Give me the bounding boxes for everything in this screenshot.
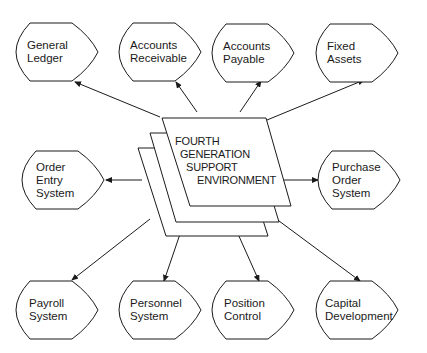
node-label-line: Control: [224, 310, 290, 323]
node-label-line: Ledger: [27, 52, 93, 65]
node-purchase-order-system[interactable]: Purchase Order System: [318, 151, 400, 209]
node-label-line: General: [27, 39, 93, 52]
node-label-line: Personnel: [130, 297, 196, 310]
center-line: GENERATION: [180, 148, 250, 161]
arrow-to-general-ledger: [75, 82, 160, 117]
node-label-line: Accounts: [130, 39, 196, 52]
node-label-line: Receivable: [130, 52, 196, 65]
node-label-line: System: [130, 310, 196, 323]
arrow-to-accounts-receivable: [176, 82, 197, 112]
node-label-line: Accounts: [223, 40, 289, 53]
arrow-to-personnel: [164, 234, 180, 281]
node-label-line: Purchase: [332, 161, 398, 174]
node-label-line: Payable: [223, 53, 289, 66]
arrow-to-accounts-payable: [240, 81, 261, 112]
node-label-line: Payroll: [29, 297, 95, 310]
center-line: SUPPORT: [186, 161, 238, 174]
node-label-line: System: [332, 187, 398, 200]
node-label-line: Order: [36, 161, 102, 174]
node-personnel-system[interactable]: Personnel System: [119, 281, 201, 339]
node-label-line: Capital: [325, 297, 397, 310]
node-label-line: Assets: [327, 53, 393, 66]
node-label-line: Fixed: [327, 40, 393, 53]
node-general-ledger[interactable]: General Ledger: [16, 23, 98, 81]
node-label-line: System: [29, 310, 95, 323]
node-accounts-receivable[interactable]: Accounts Receivable: [119, 23, 201, 81]
node-fixed-assets[interactable]: Fixed Assets: [316, 24, 398, 82]
node-label-line: Entry: [36, 174, 102, 187]
node-label-line: Development: [325, 310, 397, 323]
node-order-entry-system[interactable]: Order Entry System: [22, 151, 104, 209]
arrow-to-position-control: [238, 234, 259, 281]
arrow-to-capital-development: [275, 218, 360, 281]
arrow-to-payroll: [72, 219, 150, 280]
node-position-control[interactable]: Position Control: [212, 281, 294, 339]
node-payroll-system[interactable]: Payroll System: [16, 281, 98, 339]
node-capital-development[interactable]: Capital Development: [316, 281, 398, 339]
center-line: FOURTH: [175, 135, 219, 148]
center-line: ENVIRONMENT: [197, 174, 276, 187]
node-label-line: Position: [224, 297, 290, 310]
node-accounts-payable[interactable]: Accounts Payable: [212, 24, 294, 82]
node-label-line: Order: [332, 174, 398, 187]
arrow-to-fixed-assets: [267, 80, 364, 120]
node-label-line: System: [36, 187, 102, 200]
